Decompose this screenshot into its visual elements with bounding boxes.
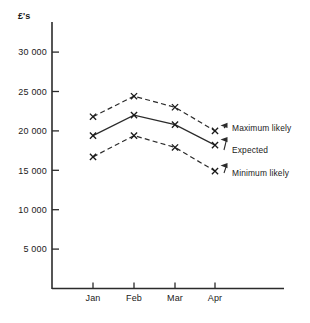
data-point-marker bbox=[212, 142, 218, 148]
x-tick-label-apr: Apr bbox=[208, 293, 223, 303]
series-group bbox=[90, 93, 218, 174]
y-axis-unit-label: £'s bbox=[18, 11, 30, 21]
series-expected bbox=[90, 112, 218, 148]
x-tick-label-mar: Mar bbox=[167, 293, 183, 303]
data-point-marker bbox=[212, 128, 218, 134]
y-axis: 5 00010 00015 00020 00025 00030 000 bbox=[18, 22, 59, 289]
y-tick-label: 30 000 bbox=[18, 47, 47, 57]
y-tick-label: 5 000 bbox=[23, 244, 47, 254]
annotation-minimum-likely: Minimum likely bbox=[221, 163, 290, 178]
data-point-marker bbox=[90, 114, 96, 120]
y-tick-label: 20 000 bbox=[18, 126, 47, 136]
x-tick-label-jan: Jan bbox=[85, 293, 100, 303]
y-tick-label: 15 000 bbox=[18, 166, 47, 176]
data-point-marker bbox=[131, 133, 137, 139]
x-tick-label-feb: Feb bbox=[126, 293, 142, 303]
data-point-marker bbox=[90, 133, 96, 139]
y-tick-label: 25 000 bbox=[18, 87, 47, 97]
y-tick-label: 10 000 bbox=[18, 205, 47, 215]
data-point-marker bbox=[131, 93, 137, 99]
chart-container: £'s 5 00010 00015 00020 00025 00030 000 … bbox=[0, 0, 310, 323]
y-tick-group: 5 00010 00015 00020 00025 00030 000 bbox=[18, 47, 59, 254]
annotation-expected: Expected bbox=[221, 137, 269, 155]
annotation-maximum-likely: Maximum likely bbox=[221, 123, 292, 133]
annotation-label: Maximum likely bbox=[232, 123, 292, 133]
data-point-marker bbox=[212, 168, 218, 174]
arrowhead-icon bbox=[221, 163, 228, 168]
series-minimum-likely bbox=[90, 133, 218, 175]
annotation-group: Maximum likelyExpectedMinimum likely bbox=[221, 123, 292, 178]
data-point-marker bbox=[172, 144, 178, 150]
annotation-label: Minimum likely bbox=[232, 168, 290, 178]
annotation-label: Expected bbox=[232, 145, 268, 155]
line-chart-svg: £'s 5 00010 00015 00020 00025 00030 000 … bbox=[0, 0, 310, 323]
x-axis: JanFebMarApr bbox=[52, 283, 284, 303]
arrowhead-icon bbox=[221, 137, 228, 142]
x-tick-group: JanFebMarApr bbox=[85, 283, 222, 303]
data-point-marker bbox=[90, 154, 96, 160]
